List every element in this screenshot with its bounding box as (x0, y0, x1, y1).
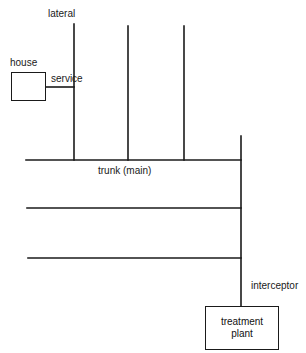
treatment-plant-box: treatment plant (205, 306, 279, 350)
trunk-main-label: trunk (main) (98, 165, 151, 177)
sewer-diagram-lines (0, 0, 306, 353)
house-box (11, 72, 46, 101)
treatment-plant-label-line2: plant (206, 328, 278, 340)
lateral-label: lateral (48, 8, 75, 20)
treatment-plant-label-line1: treatment (206, 316, 278, 328)
service-label: service (51, 73, 83, 85)
house-label: house (10, 57, 37, 69)
treatment-plant-label: treatment plant (206, 316, 278, 340)
interceptor-label: interceptor (251, 280, 298, 292)
